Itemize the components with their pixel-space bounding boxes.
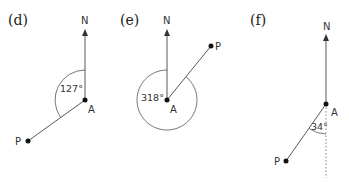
north-label-d: N [81,15,88,26]
north-arrow-icon [164,29,170,36]
point-p-d [26,139,31,144]
diagram-e: (e) N 318° A P [120,12,221,130]
line-a-to-p-d [28,100,85,141]
north-arrow-icon [323,34,329,41]
panel-label-f: (f) [250,12,266,28]
north-label-e: N [163,15,170,26]
bearings-diagram: (d) N 127° A P (e) N 318° A P (f) N 3 [0,0,349,183]
line-a-to-p-e [167,46,211,100]
angle-label-d: 127° [60,83,83,94]
point-p-f [284,159,289,164]
line-a-to-p-f [286,104,326,161]
north-arrow-icon [82,29,88,36]
panel-label-e: (e) [120,12,139,28]
point-p-label-e: P [215,41,221,52]
angle-label-f: 34° [311,121,328,132]
point-a-label-d: A [88,104,95,115]
point-a-label-f: A [331,107,338,118]
point-a-d [83,98,88,103]
north-label-f: N [323,21,330,32]
point-a-label-e: A [170,104,177,115]
point-a-e [165,98,170,103]
angle-label-e: 318° [141,92,164,103]
diagram-d: (d) N 127° A P [8,12,95,147]
point-p-e [209,44,214,49]
point-a-f [324,102,329,107]
point-p-label-d: P [15,136,21,147]
diagram-f: (f) N 34° A P [250,12,338,178]
point-p-label-f: P [274,156,280,167]
panel-label-d: (d) [8,12,28,28]
